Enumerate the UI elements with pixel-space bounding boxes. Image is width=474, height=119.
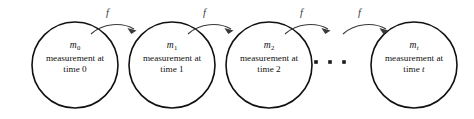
arrow-ellipsis-to-mt [343, 25, 389, 34]
ellipsis-dot [314, 60, 318, 64]
node-circle-mt [371, 22, 457, 108]
ellipsis-dot [328, 60, 332, 64]
node-circle-m1 [129, 22, 215, 108]
diagram-canvas [0, 0, 474, 119]
ellipsis-dot [342, 60, 346, 64]
node-circle-m0 [32, 22, 118, 108]
ellipsis-dots [314, 60, 346, 64]
chain-diagram-figure: m0 measurement at time 0 m1 measurement … [0, 0, 474, 119]
node-circle-m2 [226, 22, 312, 108]
